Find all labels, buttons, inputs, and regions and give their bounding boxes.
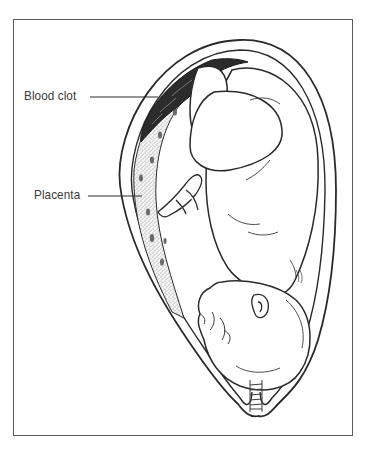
umbilical-cord <box>158 175 202 217</box>
placenta-label: Placenta <box>34 187 80 202</box>
placental-abruption-illustration <box>0 0 370 452</box>
blood-clot-label: Blood clot <box>24 88 76 103</box>
fetus <box>190 66 318 390</box>
